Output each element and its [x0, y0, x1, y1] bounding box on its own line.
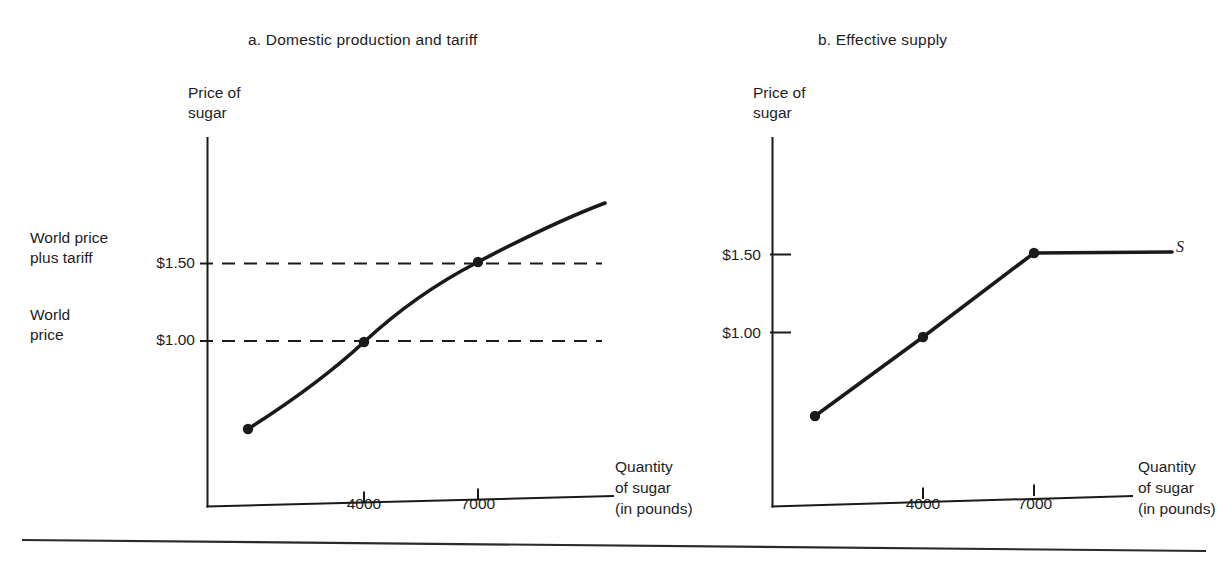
page-bottom-rule [22, 540, 1206, 551]
figure-canvas: a. Domestic production and tariff Price … [0, 0, 1228, 570]
page-bottom-rule-group [0, 0, 1228, 570]
